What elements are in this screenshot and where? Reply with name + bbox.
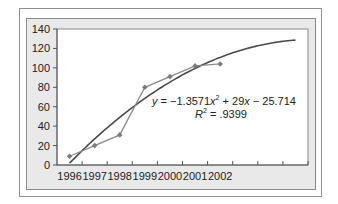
y-tick-label: 60	[38, 101, 50, 113]
y-tick-label: 120	[32, 42, 50, 54]
y-tick-label: 0	[44, 159, 50, 171]
x-tick-label: 2000	[158, 170, 182, 182]
x-tick-label: 2001	[183, 170, 207, 182]
x-tick-label: 1998	[108, 170, 132, 182]
y-tick-label: 20	[38, 140, 50, 152]
y-axis-ticks: 020406080100120140	[32, 23, 57, 171]
r-squared-label: R2 = .9399	[195, 107, 247, 120]
y-tick-label: 80	[38, 81, 50, 93]
x-tick-label: 1996	[57, 170, 81, 182]
x-tick-label: 1999	[133, 170, 157, 182]
y-tick-label: 100	[32, 62, 50, 74]
y-tick-label: 40	[38, 120, 50, 132]
trendline-equation: y = −1.3571x2 + 29x − 25.714	[151, 94, 296, 107]
x-tick-label: 1997	[82, 170, 106, 182]
y-tick-label: 140	[32, 23, 50, 35]
x-tick-label: 2002	[208, 170, 232, 182]
chart-plot: 020406080100120140 199619971998199920002…	[0, 0, 338, 204]
